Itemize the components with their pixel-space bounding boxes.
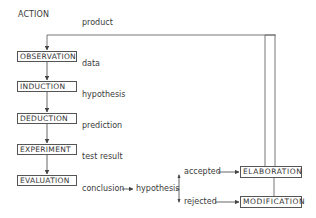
rejected-label: rejected [184, 197, 217, 207]
conclusion-label: conclusion [82, 184, 124, 194]
accepted-label: accepted [184, 167, 221, 177]
elaboration-box: ELABORATION [240, 166, 302, 178]
modification-box: MODIFICATION [240, 196, 302, 208]
induction-box: INDUCTION [17, 81, 77, 92]
decision-hypothesis-label: hypothesis [136, 184, 179, 194]
experiment-box: EXPERIMENT [17, 144, 77, 155]
hypothesis-label: hypothesis [82, 90, 125, 100]
deduction-box: DEDUCTION [17, 113, 77, 124]
evaluation-box: EVALUATION [17, 175, 77, 186]
product-label: product [82, 18, 113, 28]
observation-box: OBSERVATION [17, 51, 77, 62]
data-label: data [82, 59, 100, 69]
action-title: ACTION [18, 10, 49, 20]
scientific-method-diagram: ACTION product OBSERVATION data INDUCTIO… [0, 0, 316, 218]
prediction-label: prediction [82, 121, 122, 131]
test-result-label: test result [82, 152, 123, 162]
